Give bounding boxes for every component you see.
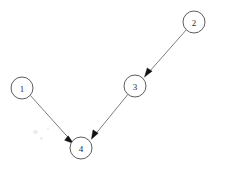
node-1[interactable]: 1 [11, 77, 33, 99]
edge-2-3-line [149, 30, 187, 73]
node-3[interactable]: 3 [124, 75, 146, 97]
node-3-label: 3 [133, 82, 138, 92]
nodes-layer: 1 2 3 4 [11, 11, 205, 159]
diagram-canvas: 1 2 3 4 [0, 0, 227, 171]
node-1-label: 1 [20, 84, 25, 94]
graph-svg: 1 2 3 4 [0, 0, 227, 171]
edges-layer [30, 30, 186, 144]
edge-2-3[interactable] [145, 30, 187, 77]
edge-3-4[interactable] [91, 94, 128, 139]
node-4-label: 4 [79, 144, 84, 154]
edge-1-4[interactable] [30, 95, 73, 143]
node-2-label: 2 [192, 18, 197, 28]
edge-1-4-line [30, 95, 69, 139]
edge-3-4-line [95, 94, 128, 134]
edge-3-4-arrowhead [91, 130, 98, 139]
node-2[interactable]: 2 [183, 11, 205, 33]
node-4[interactable]: 4 [70, 137, 92, 159]
